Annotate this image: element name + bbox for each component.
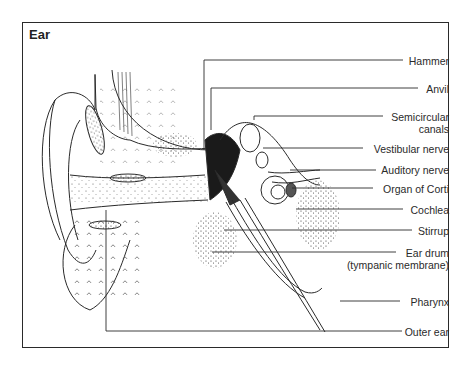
- label-auditory-nerve: Auditory nerve: [381, 164, 449, 176]
- label-ear-drum-line1: Ear drum: [347, 247, 449, 259]
- label-semicircular-line2: canals: [391, 123, 449, 135]
- label-vestibular-nerve: Vestibular nerve: [374, 143, 449, 155]
- label-hammer: Hammer: [409, 55, 449, 67]
- label-outer-ear: Outer ear: [405, 326, 449, 338]
- label-semicircular-line1: Semicircular: [391, 111, 449, 123]
- label-ear-drum: Ear drum (tympanic membrane): [347, 247, 449, 271]
- label-anvil: Anvil: [426, 83, 449, 95]
- label-pharynx: Pharynx: [410, 296, 449, 308]
- label-ear-drum-line2: (tympanic membrane): [347, 259, 449, 271]
- label-semicircular-canals: Semicircular canals: [391, 111, 449, 135]
- label-stirrup: Stirrup: [418, 225, 449, 237]
- label-organ-of-corti: Organ of Corti: [383, 183, 449, 195]
- label-cochlea: Cochlea: [410, 204, 449, 216]
